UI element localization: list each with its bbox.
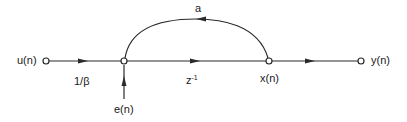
arrow-right-icon xyxy=(78,59,88,64)
node-state xyxy=(266,58,272,64)
node-sum xyxy=(121,58,127,64)
label-gain-feedback: a xyxy=(195,3,201,14)
arrow-left-icon xyxy=(196,17,206,22)
label-noise-e: e(n) xyxy=(114,104,134,115)
label-gain-input: 1/β xyxy=(74,76,90,87)
signal-flow-graph xyxy=(0,0,407,122)
node-input xyxy=(43,58,49,64)
label-gain-delay: z-1 xyxy=(186,74,198,86)
arrow-right-icon xyxy=(190,59,200,64)
label-state-x: x(n) xyxy=(260,73,279,84)
node-output xyxy=(358,58,364,64)
label-input-u: u(n) xyxy=(17,55,37,66)
edge-feedback-arc xyxy=(125,19,268,58)
arrow-up-icon xyxy=(122,76,127,86)
arrow-right-icon xyxy=(305,59,315,64)
label-gain-delay-exp: -1 xyxy=(192,74,198,81)
label-output-y: y(n) xyxy=(371,55,390,66)
